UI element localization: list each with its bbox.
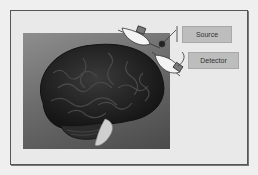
- detector-label-box: Detector: [188, 52, 239, 69]
- source-label: Source: [196, 31, 218, 38]
- source-label-box: Source: [182, 26, 232, 43]
- detector-label: Detector: [200, 57, 226, 64]
